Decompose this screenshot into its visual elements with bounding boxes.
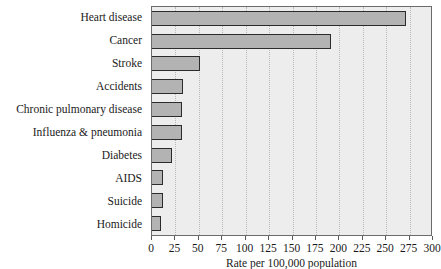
x-tick [292,236,293,240]
bar [151,216,161,231]
x-tick-label: 50 [192,241,204,255]
y-axis-category-label: Diabetes [0,144,147,167]
y-axis-category-labels: Heart diseaseCancerStrokeAccidentsChroni… [0,6,147,236]
y-axis-category-label: Stroke [0,52,147,75]
x-tick-label: 25 [169,241,181,255]
x-tick [432,236,433,240]
x-tick-label: 150 [283,241,300,255]
y-axis-category-label: Accidents [0,75,147,98]
x-tick [221,236,222,240]
y-axis-category-label: Heart disease [0,6,147,29]
bar-row [152,212,431,235]
bar [151,148,172,163]
x-tick [338,236,339,240]
x-tick-label: 75 [216,241,228,255]
x-tick-label: 275 [400,241,417,255]
plot-area [151,6,432,236]
x-tick-label: 0 [148,241,154,255]
x-tick-label: 175 [306,241,323,255]
bar-row [152,30,431,53]
bar [151,125,182,140]
bar-row [152,53,431,76]
x-tick-label: 300 [423,241,440,255]
x-tick-label: 200 [330,241,347,255]
bar [151,11,406,26]
bar-row [152,167,431,190]
x-tick-label: 100 [236,241,253,255]
x-tick [174,236,175,240]
bar-series [152,7,431,235]
x-tick [245,236,246,240]
x-tick [198,236,199,240]
x-tick-label: 225 [353,241,370,255]
y-axis-category-label: AIDS [0,167,147,190]
x-tick [315,236,316,240]
x-tick-label: 125 [259,241,276,255]
bar [151,79,183,94]
y-axis-category-label: Homicide [0,213,147,236]
bar-row [152,75,431,98]
bar [151,56,200,71]
y-axis-category-label: Chronic pulmonary disease [0,98,147,121]
bar [151,170,163,185]
bar [151,193,163,208]
x-tick [362,236,363,240]
bar-row [152,7,431,30]
bar [151,102,182,117]
bar [151,34,331,49]
bar-row [152,98,431,121]
y-axis-category-label: Cancer [0,29,147,52]
x-tick [409,236,410,240]
x-axis-tick-labels: 0255075100125150175200225250275300 [0,241,433,255]
bar-row [152,144,431,167]
bar-row [152,189,431,212]
y-axis-category-label: Influenza & pneumonia [0,121,147,144]
x-tick [385,236,386,240]
x-tick [151,236,152,240]
x-tick-label: 250 [377,241,394,255]
bar-row [152,121,431,144]
x-tick [268,236,269,240]
x-axis-title: Rate per 100,000 population [151,257,432,269]
y-axis-category-label: Suicide [0,190,147,213]
